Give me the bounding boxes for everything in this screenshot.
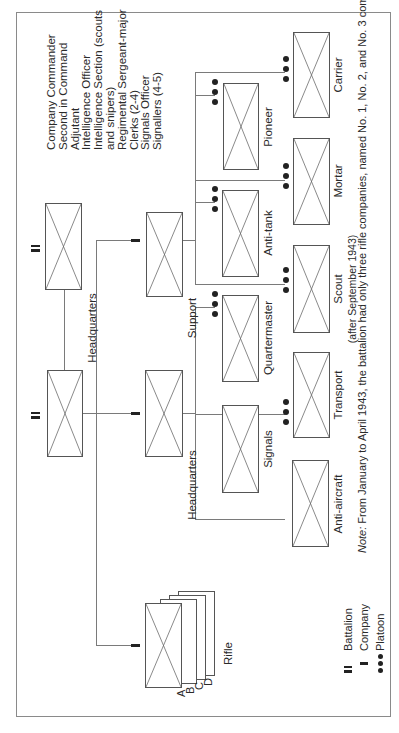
battalion-hq-symbol bbox=[31, 245, 40, 252]
support-company-box bbox=[146, 212, 183, 297]
support-company-symbol bbox=[131, 240, 140, 243]
transport-platoon-symbol bbox=[283, 399, 289, 425]
footnote: Note: From January to April 1943, the ba… bbox=[356, 0, 368, 553]
connector-battalion-down bbox=[83, 413, 96, 414]
legend-item-battalion: Battalion bbox=[340, 604, 356, 673]
quartermaster-platoon-symbol bbox=[212, 291, 218, 317]
anti-tank-platoon-symbol bbox=[212, 186, 218, 212]
rifle-letter-d: D bbox=[202, 678, 214, 686]
legend: Battalion Company Platoon bbox=[340, 604, 388, 673]
connector-carrier bbox=[195, 72, 285, 73]
connector-support-platoon-bus bbox=[195, 72, 196, 285]
quartermaster-platoon-box bbox=[222, 295, 259, 382]
anti-tank-platoon-label: Anti-tank bbox=[262, 210, 274, 255]
scout-platoon-label: Scout bbox=[332, 274, 344, 303]
hq-company-label: Headquarters bbox=[186, 450, 198, 520]
carrier-platoon-box bbox=[293, 32, 330, 118]
carrier-platoon-symbol bbox=[283, 56, 289, 82]
legend-item-company: Company bbox=[356, 604, 372, 673]
scout-platoon-symbol bbox=[283, 267, 289, 293]
transport-platoon-label: Transport bbox=[332, 371, 344, 420]
anti-aircraft-platoon-label: Anti-aircraft bbox=[332, 475, 344, 534]
staff-item: Second in Command bbox=[58, 0, 70, 150]
anti-aircraft-platoon-box bbox=[292, 460, 329, 547]
quartermaster-platoon-label: Quartermaster bbox=[262, 301, 274, 375]
mortar-platoon-box bbox=[293, 138, 330, 225]
platoon-symbol-icon bbox=[378, 651, 383, 673]
battalion-hq-box bbox=[45, 203, 82, 290]
connector-scout bbox=[195, 284, 285, 285]
footnote-prefix: Note: bbox=[356, 527, 368, 553]
rifle-company-symbol bbox=[131, 645, 140, 648]
footnote-text: From January to April 1943, the battalio… bbox=[356, 0, 368, 527]
staff-item: Regimental Sergeant-major bbox=[117, 0, 129, 150]
battalion-symbol-icon bbox=[344, 651, 352, 673]
hq-company-box bbox=[145, 370, 183, 457]
rifle-company-a-box bbox=[145, 603, 182, 688]
connector-mortar bbox=[195, 180, 285, 181]
connector-battalion-hq bbox=[64, 290, 65, 370]
pioneer-platoon-label: Pioneer bbox=[262, 107, 274, 147]
signals-platoon-label: Signals bbox=[262, 430, 274, 468]
battalion-hq-staff-list: Company Commander Second in Command Adju… bbox=[46, 0, 164, 150]
legend-label: Company bbox=[358, 604, 370, 651]
legend-label: Platoon bbox=[374, 614, 386, 651]
battalion-symbol bbox=[31, 412, 40, 419]
pioneer-platoon-box bbox=[223, 83, 259, 170]
connector-support-platoons bbox=[183, 240, 195, 241]
staff-item: Intelligence Section (scouts and snipers… bbox=[93, 0, 117, 150]
org-chart-canvas: Headquarters Company Commander Second in… bbox=[0, 0, 399, 733]
mortar-platoon-label: Mortar bbox=[332, 164, 344, 197]
mortar-platoon-symbol bbox=[283, 163, 289, 189]
battalion-hq-label: Headquarters bbox=[86, 293, 98, 363]
company-symbol-icon bbox=[360, 651, 368, 673]
connector-hq-platoons bbox=[183, 413, 195, 414]
scout-platoon-box bbox=[293, 245, 330, 333]
carrier-platoon-label: Carrier bbox=[332, 57, 344, 92]
battalion-box bbox=[47, 370, 83, 457]
rifle-company-label: Rifle bbox=[222, 642, 234, 665]
pioneer-platoon-symbol bbox=[212, 79, 218, 105]
anti-tank-platoon-box bbox=[222, 190, 259, 277]
staff-item: Signallers (4-5) bbox=[152, 0, 164, 150]
connector-aa bbox=[195, 519, 285, 520]
transport-platoon-box bbox=[293, 352, 330, 438]
legend-item-platoon: Platoon bbox=[372, 604, 388, 673]
signals-platoon-box bbox=[222, 405, 259, 493]
legend-label: Battalion bbox=[342, 608, 354, 651]
hq-company-symbol bbox=[131, 413, 140, 416]
support-company-label: Support bbox=[186, 298, 198, 338]
